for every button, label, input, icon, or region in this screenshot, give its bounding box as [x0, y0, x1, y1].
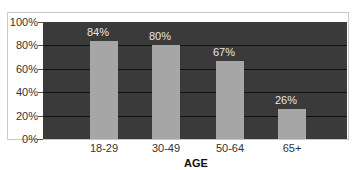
xtick-label-18-29: 18-29: [79, 142, 129, 154]
value-label-30-49: 80%: [140, 30, 180, 42]
ytick-label-20: 20%: [16, 110, 38, 122]
ytick-100: [38, 22, 43, 23]
ytick-40: [38, 92, 43, 93]
bar-30-49: [152, 45, 180, 139]
ytick-label-40: 40%: [16, 86, 38, 98]
xtick-label-50-64: 50-64: [205, 142, 255, 154]
value-label-50-64: 67%: [204, 46, 244, 58]
plot-area: 84% 80% 67% 26%: [43, 22, 347, 139]
bar-50-64: [216, 61, 244, 139]
ytick-20: [38, 116, 43, 117]
ytick-label-100: 100%: [10, 16, 38, 28]
ytick-0: [38, 139, 43, 140]
ytick-label-0: 0%: [22, 133, 38, 145]
bar-18-29: [90, 41, 118, 139]
ytick-60: [38, 69, 43, 70]
ytick-label-80: 80%: [16, 39, 38, 51]
ytick-label-60: 60%: [16, 63, 38, 75]
gridline-60: [43, 69, 347, 70]
value-label-65-plus: 26%: [266, 94, 306, 106]
value-label-18-29: 84%: [78, 26, 118, 38]
x-axis-title: AGE: [171, 157, 221, 169]
bar-65-plus: [278, 109, 306, 139]
gridline-80: [43, 45, 347, 46]
gridline-40: [43, 92, 347, 93]
xtick-label-30-49: 30-49: [141, 142, 191, 154]
xtick-label-65-plus: 65+: [267, 142, 317, 154]
ytick-80: [38, 45, 43, 46]
